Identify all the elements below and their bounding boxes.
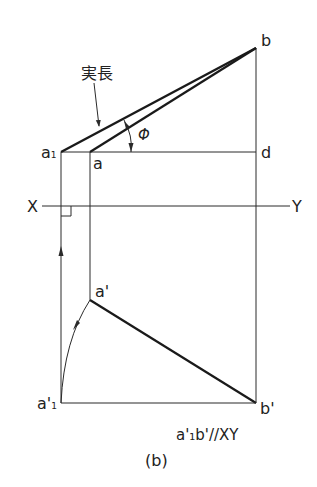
label-a-prime: a' bbox=[95, 282, 109, 301]
label-x-axis: X bbox=[27, 197, 38, 216]
plan-line-a-b bbox=[90, 48, 256, 152]
label-y-axis: Y bbox=[291, 197, 302, 216]
angle-arrow-bottom-icon bbox=[129, 143, 134, 152]
true-length-leader bbox=[94, 83, 99, 126]
figure-caption: (b) bbox=[145, 451, 168, 470]
note-parallel: a'₁b'//XY bbox=[176, 426, 239, 444]
true-length-diagram: b d a1 a X Y a' a'1 b' 実長 Φ a'₁b'//XY (b… bbox=[0, 0, 317, 487]
rotation-arc bbox=[61, 300, 90, 403]
label-a: a bbox=[93, 154, 103, 173]
label-angle-phi: Φ bbox=[138, 126, 150, 144]
label-true-length: 実長 bbox=[81, 64, 113, 83]
label-b: b bbox=[261, 31, 271, 50]
elevation-line-a-prime-b-prime bbox=[90, 300, 256, 403]
label-b-prime: b' bbox=[260, 399, 275, 418]
label-a1-prime: a'1 bbox=[37, 394, 57, 413]
right-angle-mark bbox=[61, 206, 71, 216]
label-d: d bbox=[261, 143, 271, 162]
label-a1: a1 bbox=[41, 143, 57, 162]
up-arrow-icon bbox=[59, 246, 64, 256]
